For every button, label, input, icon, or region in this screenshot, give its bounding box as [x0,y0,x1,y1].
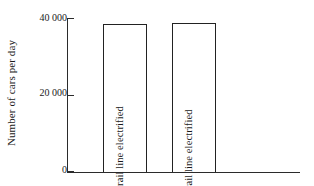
y-tick-mark-0 [68,171,74,172]
bar-after-rail-line-electrified: After rail line electrified [172,23,216,172]
y-tick-mark-20000 [68,95,74,96]
bar-label-before: Before rail line electrified [114,106,125,186]
y-tick-label-20000: 20 000 [40,88,68,98]
plot-area: Before rail line electrified After rail … [67,18,300,172]
bar-before-rail-line-electrified: Before rail line electrified [103,24,147,172]
y-tick-mark-40000 [68,18,74,19]
y-axis-title: Number of cars per day [0,0,22,186]
bar-chart-figure: Number of cars per day 40 000 20 000 0 B… [0,0,314,186]
y-tick-label-40000: 40 000 [40,13,68,23]
bar-label-after: After rail line electrified [183,109,194,186]
